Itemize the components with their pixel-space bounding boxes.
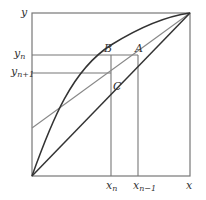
point-a-label: A	[134, 42, 143, 55]
point-b-label: B	[103, 42, 112, 55]
diagram-canvas: y x yn yn+1 xn xn−1 A B C	[0, 0, 206, 200]
x-n-minus-1-label: xn−1	[133, 179, 156, 193]
y-n-label: yn	[13, 47, 25, 61]
x-axis-label: x	[186, 179, 193, 192]
x-n-label: xn	[106, 179, 117, 193]
y-n-plus-1-label: yn+1	[10, 65, 34, 79]
point-c-label: C	[113, 80, 122, 93]
y-axis-label: y	[20, 6, 28, 19]
